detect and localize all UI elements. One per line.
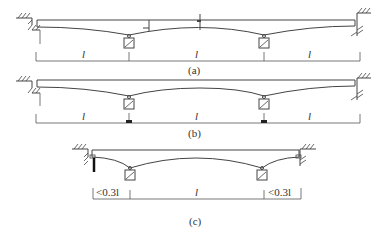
pier-left (125, 167, 135, 181)
span-label: l (308, 110, 311, 122)
span-label: l (195, 48, 198, 60)
pier-right (259, 96, 269, 110)
hinge-joint (143, 20, 149, 31)
span-label: l (308, 48, 311, 60)
panel-c: <0.3l l <0.3l (c) (72, 144, 316, 228)
continuous-girder-diagram: l l l (a) (0, 0, 388, 240)
girder (37, 20, 355, 35)
girder (92, 150, 299, 168)
pier-right (259, 35, 269, 49)
span-label: l (82, 110, 85, 122)
span-label: l (82, 48, 85, 60)
pier-base-block (126, 120, 132, 123)
panel-caption: (b) (188, 127, 201, 140)
span-label: <0.3l (96, 186, 119, 198)
pier-left (124, 35, 134, 49)
right-abutment (351, 8, 371, 36)
panel-caption: (a) (188, 64, 201, 77)
span-label: l (195, 110, 198, 122)
left-abutment (16, 13, 40, 44)
dimension-line: l l l (36, 110, 360, 123)
pier-base-block (261, 120, 267, 123)
left-abutment (16, 76, 40, 106)
dimension-line: l l l (36, 48, 360, 61)
girder (37, 80, 355, 96)
panel-b: l l l (b) (16, 73, 371, 140)
left-abutment (72, 144, 95, 172)
pier-left (124, 96, 134, 110)
panel-caption: (c) (189, 215, 202, 228)
pier-right (257, 167, 267, 181)
dimension-line: <0.3l l <0.3l (93, 186, 301, 199)
span-label: <0.3l (268, 186, 291, 198)
span-label: l (195, 186, 198, 198)
panel-a: l l l (a) (16, 8, 371, 77)
